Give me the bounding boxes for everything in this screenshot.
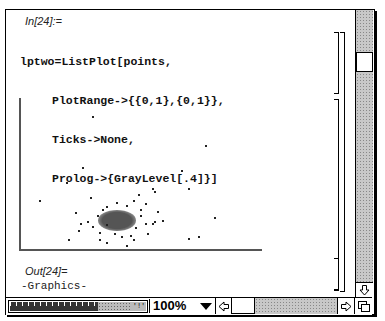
output-cell-bracket[interactable] [334, 258, 339, 290]
data-point [133, 200, 135, 202]
notebook-window: In[24]:= lptwo=ListPlot[points, PlotRang… [5, 9, 375, 315]
ruler-track [98, 302, 132, 311]
data-point [188, 238, 190, 240]
data-point [214, 217, 216, 219]
data-point [106, 224, 108, 226]
output-cell-value[interactable]: -Graphics- [21, 280, 87, 292]
data-point [92, 226, 94, 228]
scatter-plot-graphic[interactable] [19, 96, 263, 252]
data-point [126, 245, 128, 247]
vertical-scroll-thumb[interactable] [356, 52, 373, 72]
data-point [154, 221, 156, 223]
data-point [135, 227, 137, 229]
arrow-right-icon [341, 301, 352, 312]
data-point [126, 205, 128, 207]
data-point [121, 236, 123, 238]
data-point [78, 230, 80, 232]
data-point [68, 239, 70, 241]
bottom-status-bar: '!' 100% [6, 297, 372, 315]
data-point [87, 221, 89, 223]
window-resize-box[interactable] [354, 298, 373, 314]
data-point [80, 223, 82, 225]
data-point [198, 236, 200, 238]
input-cell-label: In[24]:= [25, 15, 62, 27]
data-point [154, 191, 156, 193]
data-point [130, 235, 132, 237]
data-point [145, 203, 147, 205]
horizontal-scroll-thumb[interactable] [231, 298, 255, 314]
data-point [99, 232, 101, 234]
data-point [140, 215, 142, 217]
ruler-scale [10, 302, 98, 311]
scroll-down-button[interactable] [356, 282, 373, 298]
data-point [106, 242, 108, 244]
output-cell-label: Out[24]= [25, 265, 68, 277]
scroll-left-button[interactable] [215, 298, 232, 314]
data-point [140, 209, 142, 211]
y-axis [19, 98, 21, 251]
data-point [90, 197, 92, 199]
data-point [181, 170, 183, 172]
data-point [133, 239, 135, 241]
data-point [188, 188, 190, 190]
dense-point-cluster [98, 210, 136, 231]
arrow-left-icon [218, 301, 229, 312]
arrow-down-icon [359, 285, 370, 296]
zoom-dropdown-icon[interactable] [200, 303, 212, 310]
notebook-content[interactable]: In[24]:= lptwo=ListPlot[points, PlotRang… [6, 10, 355, 297]
data-point [66, 182, 68, 184]
data-point [82, 167, 84, 169]
magnification-ruler[interactable]: '!' [8, 300, 148, 313]
data-point [114, 233, 116, 235]
data-point [205, 145, 207, 147]
data-point [152, 188, 154, 190]
data-point [138, 194, 140, 196]
size-box-icon-front [361, 304, 370, 312]
zoom-level[interactable]: 100% [149, 299, 201, 313]
cell-group-bracket[interactable] [340, 32, 345, 292]
vertical-scrollbar[interactable] [355, 10, 373, 297]
data-point [97, 215, 99, 217]
scroll-right-button[interactable] [337, 298, 354, 314]
code-line-1: lptwo=ListPlot[points, [20, 55, 225, 68]
data-point [145, 223, 147, 225]
data-point [162, 220, 164, 222]
data-point [152, 223, 154, 225]
data-point [157, 211, 159, 213]
input-cell-bracket[interactable] [334, 32, 339, 94]
data-point [99, 239, 101, 241]
data-point [116, 202, 118, 204]
x-axis [19, 249, 262, 251]
ruler-marker[interactable]: '!' [132, 302, 146, 311]
data-point [102, 209, 104, 211]
data-point [39, 200, 41, 202]
data-point [147, 233, 149, 235]
data-point [106, 206, 108, 208]
data-point [92, 116, 94, 118]
data-point [75, 212, 77, 214]
